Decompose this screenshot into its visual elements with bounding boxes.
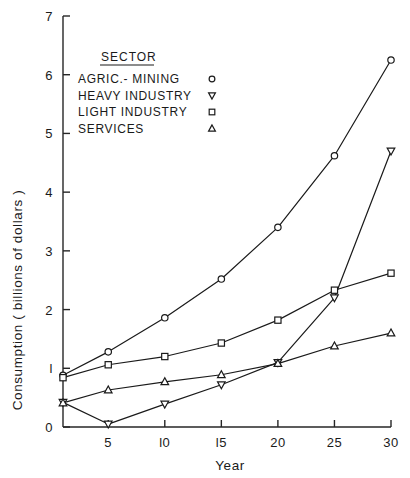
triangle-up-icon [209, 125, 216, 131]
chart-canvas: 0l234567 5l0l5202530 Consumption ( billi… [0, 0, 410, 478]
y-tick-label: 3 [45, 244, 53, 259]
legend-entry: HEAVY INDUSTRY [78, 89, 215, 103]
series-line [63, 273, 391, 378]
legend-entry: LIGHT INDUSTRY [78, 105, 215, 119]
x-tick-label: l5 [216, 435, 227, 450]
legend-entries: AGRIC.- MININGHEAVY INDUSTRYLIGHT INDUST… [78, 72, 215, 136]
y-tick-label: 7 [45, 9, 53, 24]
legend-entry: AGRIC.- MINING [78, 72, 215, 86]
legend-entry-label: AGRIC.- MINING [78, 72, 180, 86]
y-tick-label: 4 [45, 185, 53, 200]
x-axis-ticks: 5l0l5202530 [104, 420, 398, 450]
y-tick-label: 6 [45, 68, 53, 83]
chart-legend: SECTOR AGRIC.- MININGHEAVY INDUSTRYLIGHT… [78, 50, 215, 136]
line-chart-figure: 0l234567 5l0l5202530 Consumption ( billi… [0, 0, 410, 478]
x-tick-label: 25 [327, 435, 342, 450]
marker-square [105, 362, 111, 368]
circle-icon [209, 76, 215, 82]
marker-circle [331, 153, 337, 159]
x-tick-label: l0 [159, 435, 170, 450]
y-tick-label: 5 [45, 126, 53, 141]
marker-circle [388, 57, 394, 63]
triangle-down-icon [209, 93, 216, 99]
marker-triangle-down [387, 148, 395, 155]
legend-entry: SERVICES [78, 122, 215, 136]
marker-circle [105, 349, 111, 355]
series-square [60, 270, 394, 381]
marker-square [331, 287, 337, 293]
legend-entry-label: SERVICES [78, 122, 144, 136]
series-triangle-down [59, 148, 395, 428]
y-tick-label: l [50, 361, 53, 376]
square-icon [209, 109, 215, 115]
legend-entry-label: LIGHT INDUSTRY [78, 105, 187, 119]
legend-entry-label: HEAVY INDUSTRY [78, 89, 192, 103]
marker-circle [162, 315, 168, 321]
marker-square [275, 317, 281, 323]
y-axis-ticks: 0l234567 [45, 9, 70, 435]
y-tick-label: 0 [45, 420, 53, 435]
marker-square [218, 340, 224, 346]
marker-circle [275, 224, 281, 230]
legend-title: SECTOR [101, 50, 157, 64]
y-axis-title: Consumption ( billions of dollars ) [10, 190, 25, 411]
x-axis-title: Year [215, 458, 245, 473]
marker-triangle-up [387, 329, 395, 336]
x-tick-label: 30 [383, 435, 398, 450]
x-tick-label: 5 [104, 435, 112, 450]
x-tick-label: 20 [270, 435, 285, 450]
marker-square [60, 375, 66, 381]
marker-square [388, 270, 394, 276]
y-tick-label: 2 [45, 303, 53, 318]
marker-circle [218, 276, 224, 282]
marker-square [162, 353, 168, 359]
